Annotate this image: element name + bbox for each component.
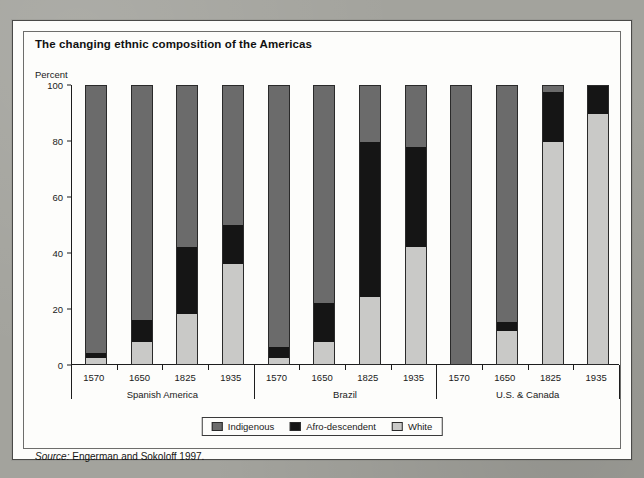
x-axis-group-divider xyxy=(254,365,255,399)
y-tick: 60 xyxy=(52,192,71,203)
bar-segment-afro xyxy=(269,347,289,358)
legend-label: Afro-descendent xyxy=(306,421,376,432)
bar-segment-white xyxy=(360,297,380,364)
bar-segment-white xyxy=(543,142,563,364)
bar-spanish-america-1935 xyxy=(222,85,244,365)
bar-segment-white xyxy=(269,358,289,364)
y-axis-title: Percent xyxy=(35,69,68,80)
y-tick: 0 xyxy=(58,360,71,371)
bar-segment-white xyxy=(177,314,197,364)
bar-segment-afro xyxy=(543,92,563,142)
x-tick-mark xyxy=(299,365,300,370)
x-axis-group-divider xyxy=(619,365,620,399)
source-note: Source: Engerman and Sokoloff 1997. xyxy=(35,451,204,462)
bar-segment-indigenous xyxy=(451,86,471,364)
y-tick-label: 60 xyxy=(52,192,63,203)
legend-item-indigenous[interactable]: Indigenous xyxy=(212,421,274,432)
bar-segment-indigenous xyxy=(132,86,152,320)
bar-segment-indigenous xyxy=(314,86,334,303)
x-tick-label-year: 1825 xyxy=(357,372,378,383)
bar-brazil-1935 xyxy=(405,85,427,365)
x-tick-label-year: 1650 xyxy=(312,372,333,383)
y-tick-label: 20 xyxy=(52,304,63,315)
y-tick: 20 xyxy=(52,304,71,315)
legend-item-white[interactable]: White xyxy=(392,421,432,432)
x-tick-mark xyxy=(345,365,346,370)
legend-swatch-icon xyxy=(212,422,223,431)
bar-brazil-1650 xyxy=(313,85,335,365)
x-tick-label-year: 1935 xyxy=(403,372,424,383)
bar-segment-white xyxy=(588,114,608,364)
x-axis: 1570165018251935Spanish America157016501… xyxy=(71,365,619,411)
x-tick-label-year: 1650 xyxy=(129,372,150,383)
x-tick-label-year: 1935 xyxy=(586,372,607,383)
x-tick-mark xyxy=(482,365,483,370)
bar-brazil-1570 xyxy=(268,85,290,365)
x-tick-label-year: 1650 xyxy=(494,372,515,383)
x-tick-label-year: 1570 xyxy=(83,372,104,383)
bar-segment-afro xyxy=(223,225,243,264)
bar-segment-indigenous xyxy=(406,86,426,147)
x-tick-label-year: 1935 xyxy=(220,372,241,383)
x-tick-label-year: 1570 xyxy=(266,372,287,383)
y-tick: 100 xyxy=(47,80,71,91)
bars-layer xyxy=(71,85,619,365)
source-text: Engerman and Sokoloff 1997. xyxy=(72,451,204,462)
bar-segment-indigenous xyxy=(360,86,380,142)
x-tick-mark xyxy=(573,365,574,370)
x-tick-mark xyxy=(117,365,118,370)
bar-u-s-canada-1825 xyxy=(542,85,564,365)
bar-spanish-america-1650 xyxy=(131,85,153,365)
y-tick: 40 xyxy=(52,248,71,259)
page-title: The changing ethnic composition of the A… xyxy=(35,38,312,50)
bar-spanish-america-1570 xyxy=(85,85,107,365)
figure-card: The changing ethnic composition of the A… xyxy=(12,20,632,460)
legend: IndigenousAfro-descendentWhite xyxy=(202,417,443,436)
legend-label: Indigenous xyxy=(228,421,274,432)
bar-u-s-canada-1935 xyxy=(587,85,609,365)
bar-segment-afro xyxy=(132,320,152,342)
bar-segment-afro xyxy=(360,142,380,298)
x-axis-group-label: Brazil xyxy=(333,389,357,400)
bar-segment-white xyxy=(223,264,243,364)
bar-brazil-1825 xyxy=(359,85,381,365)
y-tick-label: 40 xyxy=(52,248,63,259)
bar-segment-indigenous xyxy=(269,86,289,347)
legend-item-afro-descendent[interactable]: Afro-descendent xyxy=(290,421,376,432)
bar-segment-white xyxy=(497,331,517,364)
x-tick-label-year: 1570 xyxy=(449,372,470,383)
bar-segment-afro xyxy=(314,303,334,342)
x-tick-mark xyxy=(528,365,529,370)
bar-u-s-canada-1570 xyxy=(450,85,472,365)
bar-segment-white xyxy=(86,358,106,364)
bar-segment-white xyxy=(406,247,426,364)
bar-u-s-canada-1650 xyxy=(496,85,518,365)
bar-segment-afro xyxy=(406,147,426,247)
bar-segment-white xyxy=(314,342,334,364)
legend-swatch-icon xyxy=(290,422,301,431)
legend-label: White xyxy=(408,421,432,432)
x-axis-group-divider xyxy=(71,365,72,399)
bar-spanish-america-1825 xyxy=(176,85,198,365)
y-tick-label: 100 xyxy=(47,80,63,91)
y-tick-label: 0 xyxy=(58,360,63,371)
legend-swatch-icon xyxy=(392,422,403,431)
bar-segment-indigenous xyxy=(86,86,106,353)
bar-segment-indigenous xyxy=(497,86,517,322)
x-axis-group-divider xyxy=(436,365,437,399)
bar-segment-white xyxy=(132,342,152,364)
source-label: Source: xyxy=(35,451,69,462)
x-tick-mark xyxy=(208,365,209,370)
y-tick-label: 80 xyxy=(52,136,63,147)
bar-segment-afro xyxy=(177,247,197,314)
x-axis-group-label: U.S. & Canada xyxy=(496,389,559,400)
x-tick-mark xyxy=(391,365,392,370)
x-axis-group-label: Spanish America xyxy=(127,389,198,400)
bar-segment-afro xyxy=(497,322,517,330)
x-tick-label-year: 1825 xyxy=(540,372,561,383)
bar-segment-indigenous xyxy=(223,86,243,225)
screenshot-root: The changing ethnic composition of the A… xyxy=(0,0,644,478)
y-tick: 80 xyxy=(52,136,71,147)
bar-segment-afro xyxy=(588,86,608,114)
x-tick-mark xyxy=(162,365,163,370)
